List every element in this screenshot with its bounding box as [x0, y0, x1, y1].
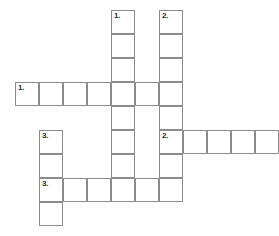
- cell-letter: [112, 155, 134, 177]
- crossword-cell[interactable]: 1.: [15, 82, 39, 106]
- crossword-cell[interactable]: [183, 130, 207, 154]
- crossword-cell[interactable]: [159, 58, 183, 82]
- crossword-cell[interactable]: [63, 178, 87, 202]
- cell-letter: [256, 131, 278, 153]
- crossword-cell[interactable]: 1.: [111, 10, 135, 34]
- crossword-cell[interactable]: [159, 154, 183, 178]
- crossword-cell[interactable]: [159, 34, 183, 58]
- cell-letter: [16, 83, 38, 105]
- cell-letter: [160, 11, 182, 33]
- crossword-cell[interactable]: [111, 106, 135, 130]
- cell-letter: [112, 107, 134, 129]
- cell-letter: [184, 131, 206, 153]
- cell-letter: [40, 179, 62, 201]
- crossword-cell[interactable]: [111, 178, 135, 202]
- cell-letter: [40, 131, 62, 153]
- cell-letter: [40, 83, 62, 105]
- cell-letter: [112, 83, 134, 105]
- cell-letter: [88, 83, 110, 105]
- crossword-cell[interactable]: [111, 34, 135, 58]
- cell-letter: [136, 83, 158, 105]
- cell-letter: [160, 131, 182, 153]
- cell-letter: [160, 155, 182, 177]
- crossword-cell[interactable]: 2.: [159, 130, 183, 154]
- cell-letter: [160, 35, 182, 57]
- cell-letter: [160, 107, 182, 129]
- crossword-cell[interactable]: [39, 154, 63, 178]
- cell-letter: [40, 203, 62, 225]
- cell-letter: [160, 83, 182, 105]
- crossword-cell[interactable]: [159, 178, 183, 202]
- crossword-cell[interactable]: 3.: [39, 130, 63, 154]
- crossword-cell[interactable]: [135, 82, 159, 106]
- cell-letter: [232, 131, 254, 153]
- cell-letter: [88, 179, 110, 201]
- cell-letter: [112, 59, 134, 81]
- cell-letter: [64, 83, 86, 105]
- crossword-cell[interactable]: [63, 82, 87, 106]
- cell-letter: [64, 179, 86, 201]
- crossword-cell[interactable]: [159, 82, 183, 106]
- crossword-cell[interactable]: [159, 106, 183, 130]
- crossword-cell[interactable]: [111, 58, 135, 82]
- cell-letter: [208, 131, 230, 153]
- crossword-cell[interactable]: [111, 130, 135, 154]
- cell-letter: [160, 59, 182, 81]
- cell-letter: [112, 35, 134, 57]
- crossword-cell[interactable]: [111, 82, 135, 106]
- cell-letter: [160, 179, 182, 201]
- crossword-cell[interactable]: [87, 178, 111, 202]
- crossword-cell[interactable]: [39, 82, 63, 106]
- crossword-cell[interactable]: [255, 130, 279, 154]
- crossword-cell[interactable]: [39, 202, 63, 226]
- crossword-cell[interactable]: [111, 154, 135, 178]
- crossword-cell[interactable]: 3.: [39, 178, 63, 202]
- crossword-cell[interactable]: [207, 130, 231, 154]
- crossword-grid: 1.2.1.3.2.3.: [0, 0, 279, 236]
- crossword-cell[interactable]: 2.: [159, 10, 183, 34]
- crossword-cell[interactable]: [87, 82, 111, 106]
- cell-letter: [40, 155, 62, 177]
- crossword-cell[interactable]: [135, 178, 159, 202]
- crossword-cell[interactable]: [231, 130, 255, 154]
- cell-letter: [136, 179, 158, 201]
- cell-letter: [112, 11, 134, 33]
- cell-letter: [112, 131, 134, 153]
- cell-letter: [112, 179, 134, 201]
